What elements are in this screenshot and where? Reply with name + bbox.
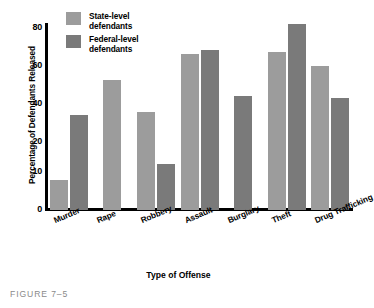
bar-burglary-federal — [234, 96, 252, 210]
bar-robbery-federal — [157, 164, 175, 211]
bar-theft-state — [268, 52, 286, 210]
bar-murder-federal — [70, 115, 88, 210]
legend-label-state-line1: State-level — [89, 11, 132, 21]
y-tick-label-0: 0 — [37, 204, 42, 214]
y-axis-title: Percentage of Defendants Released — [27, 20, 37, 210]
bar-assault-state — [181, 54, 199, 210]
bar-murder-state — [50, 180, 68, 210]
bar-rape-state — [103, 80, 121, 210]
bar-assault-federal — [201, 50, 219, 210]
bar-drug-trafficking-state — [311, 66, 329, 210]
bar-drug-trafficking-federal — [331, 98, 349, 210]
bar-robbery-state — [137, 112, 155, 210]
figure-caption: FIGURE 7–5 — [10, 289, 68, 299]
plot-area — [47, 24, 352, 210]
x-axis-title: Type of Offense — [0, 270, 357, 280]
bar-theft-federal — [288, 24, 306, 210]
